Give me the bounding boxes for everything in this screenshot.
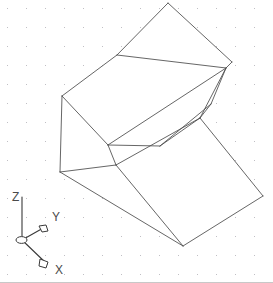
grid-dot — [235, 103, 236, 104]
grid-dot — [197, 8, 198, 9]
grid-dot — [45, 274, 46, 275]
grid-dot — [102, 236, 103, 237]
grid-dot — [254, 65, 255, 66]
grid-dot — [235, 8, 236, 9]
grid-dot — [26, 198, 27, 199]
grid-dot — [7, 141, 8, 142]
grid-dot — [102, 255, 103, 256]
grid-dot — [64, 236, 65, 237]
grid-dot — [121, 27, 122, 28]
grid-dot — [45, 46, 46, 47]
grid-dot — [235, 65, 236, 66]
grid-dot — [83, 274, 84, 275]
grid-dot — [159, 236, 160, 237]
grid-dot — [140, 274, 141, 275]
grid-dot — [254, 27, 255, 28]
grid-dot — [254, 274, 255, 275]
grid-dot — [178, 8, 179, 9]
grid-dot — [64, 27, 65, 28]
grid-dot — [26, 160, 27, 161]
x-axis-arrowhead-icon — [39, 259, 48, 268]
grid-dot — [7, 122, 8, 123]
grid-dot — [45, 198, 46, 199]
grid-dot — [159, 274, 160, 275]
grid-dot — [197, 274, 198, 275]
grid-dot — [121, 217, 122, 218]
grid-dot — [159, 255, 160, 256]
grid-dot — [64, 255, 65, 256]
grid-dot — [254, 141, 255, 142]
grid-dot — [254, 160, 255, 161]
grid-dot — [64, 46, 65, 47]
grid-dot — [7, 274, 8, 275]
grid-dot — [7, 198, 8, 199]
grid-dot — [254, 236, 255, 237]
grid-dot — [7, 8, 8, 9]
grid-dot — [83, 8, 84, 9]
grid-dot — [216, 274, 217, 275]
ucs-origin-marker-icon — [16, 237, 27, 244]
grid-dot — [7, 160, 8, 161]
grid-dot — [64, 274, 65, 275]
grid-dot — [26, 103, 27, 104]
grid-dot — [83, 65, 84, 66]
grid-dot — [26, 84, 27, 85]
grid-dot — [45, 236, 46, 237]
grid-dot — [197, 27, 198, 28]
grid-dot — [140, 8, 141, 9]
grid-dot — [102, 274, 103, 275]
grid-dot — [83, 255, 84, 256]
grid-dot — [235, 27, 236, 28]
grid-dot — [26, 141, 27, 142]
grid-dot — [45, 103, 46, 104]
grid-dot — [45, 255, 46, 256]
grid-dot — [254, 122, 255, 123]
grid-dot — [235, 274, 236, 275]
grid-dot — [121, 274, 122, 275]
y-axis-arrowhead-icon — [39, 225, 48, 232]
y-axis-label: Y — [52, 210, 60, 224]
grid-dot — [45, 8, 46, 9]
grid-dot — [216, 27, 217, 28]
grid-dot — [235, 122, 236, 123]
grid-dot — [26, 27, 27, 28]
grid-dot — [235, 141, 236, 142]
grid-dot — [7, 46, 8, 47]
grid-dot — [216, 103, 217, 104]
grid-dot — [254, 255, 255, 256]
model-face-layer — [60, 3, 263, 246]
grid-dot — [64, 217, 65, 218]
grid-dot — [197, 255, 198, 256]
grid-dot — [254, 179, 255, 180]
grid-dot — [83, 198, 84, 199]
grid-dot — [83, 217, 84, 218]
cad-canvas[interactable]: Z Y X — [0, 0, 273, 283]
grid-dot — [235, 217, 236, 218]
grid-dot — [235, 84, 236, 85]
grid-dot — [121, 255, 122, 256]
ucs-axis-indicator[interactable]: Z Y X — [12, 190, 63, 277]
grid-dot — [140, 27, 141, 28]
grid-dot — [7, 217, 8, 218]
grid-dot — [254, 84, 255, 85]
grid-dot — [45, 160, 46, 161]
grid-dot — [64, 179, 65, 180]
grid-dot — [235, 46, 236, 47]
grid-dot — [45, 84, 46, 85]
grid-dot — [45, 141, 46, 142]
grid-dot — [45, 65, 46, 66]
grid-dot — [64, 198, 65, 199]
grid-dot — [64, 65, 65, 66]
grid-dot — [83, 46, 84, 47]
grid-dot — [45, 122, 46, 123]
grid-dot — [140, 255, 141, 256]
grid-dot — [26, 255, 27, 256]
grid-dot — [26, 274, 27, 275]
grid-dot — [216, 122, 217, 123]
grid-dot — [7, 84, 8, 85]
grid-dot — [121, 8, 122, 9]
grid-dot — [102, 217, 103, 218]
grid-dot — [121, 46, 122, 47]
grid-dot — [7, 27, 8, 28]
cad-drawing-viewport[interactable]: Z Y X — [0, 0, 273, 283]
